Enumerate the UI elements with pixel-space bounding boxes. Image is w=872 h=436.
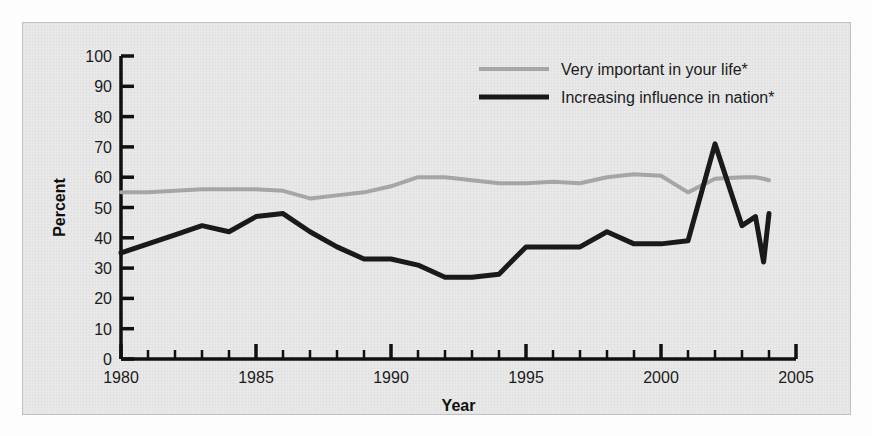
legend-item-1: Very important in your life* — [479, 61, 748, 78]
chart-panel: 0102030405060708090100198019851990199520… — [22, 22, 851, 415]
y-axis-tick-label: 100 — [85, 48, 112, 65]
y-axis-tick-label: 90 — [94, 78, 112, 95]
x-axis-title: Year — [442, 397, 476, 414]
x-axis-tick-label: 1990 — [373, 369, 409, 386]
figure-container: 0102030405060708090100198019851990199520… — [0, 0, 872, 436]
y-axis-tick-label: 40 — [94, 230, 112, 247]
y-axis-tick-label: 60 — [94, 169, 112, 186]
line-chart: 0102030405060708090100198019851990199520… — [23, 23, 851, 415]
legend-item-2: Increasing influence in nation* — [479, 89, 774, 106]
y-axis-tick-label: 10 — [94, 321, 112, 338]
y-axis-tick-label: 70 — [94, 139, 112, 156]
y-axis-tick-label: 30 — [94, 260, 112, 277]
x-axis-tick-label: 1995 — [508, 369, 544, 386]
x-axis-tick-label: 1985 — [238, 369, 274, 386]
x-axis-tick-label: 2005 — [778, 369, 814, 386]
legend-label-1: Very important in your life* — [561, 61, 748, 78]
y-axis-tick-label: 80 — [94, 109, 112, 126]
legend-label-2: Increasing influence in nation* — [561, 89, 774, 106]
series-line-2 — [121, 144, 769, 277]
y-axis-title: Percent — [51, 177, 68, 236]
y-axis-tick-label: 50 — [94, 200, 112, 217]
x-axis-tick-label: 1980 — [103, 369, 139, 386]
x-axis-tick-label: 2000 — [643, 369, 679, 386]
y-axis-tick-label: 20 — [94, 290, 112, 307]
series-line-1 — [121, 174, 769, 198]
y-axis-tick-label: 0 — [103, 351, 112, 368]
